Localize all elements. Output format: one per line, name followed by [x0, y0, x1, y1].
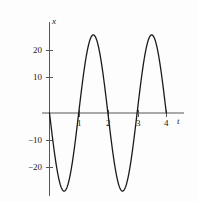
y-tick-label-10: 10	[22, 73, 42, 82]
x-tick-label-4: 4	[164, 119, 169, 128]
y-tick-label-20: 20	[22, 46, 42, 55]
x-tick-label-2: 2	[106, 119, 111, 128]
y-tick-label-minus-10: −10	[17, 136, 42, 145]
x-axis-label: t	[177, 117, 180, 126]
x-tick-label-3: 3	[136, 119, 141, 128]
x-tick-label-1: 1	[77, 119, 82, 128]
y-tick-label-minus-20: −20	[17, 163, 42, 172]
graph-figure: 20 10 −10 −20 1 2 3 4 x t	[0, 0, 198, 202]
y-axis-label: x	[52, 17, 56, 26]
